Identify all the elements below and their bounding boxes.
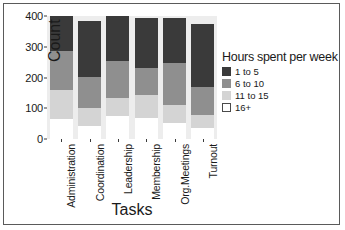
y-axis-label: Count	[46, 19, 64, 62]
x-tick-mark	[203, 139, 204, 142]
y-tick-label: 100	[25, 102, 43, 114]
x-tick-mark	[61, 139, 62, 142]
legend-swatch-icon	[222, 91, 231, 100]
x-tick-label: Leadership	[122, 144, 134, 194]
legend-item-label: 11 to 15	[235, 90, 269, 101]
bar-segment	[106, 61, 129, 98]
bar-segment	[163, 18, 186, 63]
bar-segment	[135, 118, 158, 139]
bar-leadership[interactable]	[106, 16, 129, 139]
bar-segment	[50, 119, 73, 139]
y-tick-mark	[44, 16, 47, 17]
x-tick-label: Coordination	[94, 144, 106, 201]
legend-items: 1 to 56 to 1011 to 1516+	[222, 66, 338, 113]
bar-segment	[191, 24, 214, 87]
x-axis-label: Tasks	[47, 201, 217, 219]
bar-segment	[50, 90, 73, 120]
plot-area	[47, 16, 217, 139]
bar-org-meetings[interactable]	[163, 18, 186, 139]
x-tick-mark	[90, 139, 91, 142]
bar-segment	[191, 115, 214, 128]
bar-segment	[163, 63, 186, 104]
legend-item-label: 1 to 5	[235, 66, 259, 77]
x-tick-mark	[118, 139, 119, 142]
bar-segment	[78, 77, 101, 109]
y-tick-mark	[44, 139, 47, 140]
bar-segment	[106, 116, 129, 139]
bar-segment	[78, 126, 101, 139]
x-tick-label: Membership	[150, 144, 162, 200]
x-tick-label: Administration	[65, 144, 77, 208]
x-tick-mark	[146, 139, 147, 142]
legend-item-label: 16+	[235, 102, 251, 113]
chart-frame: Count 0100200300400 AdministrationCoordi…	[3, 3, 340, 225]
bar-segment	[191, 87, 214, 115]
bar-segment	[191, 128, 214, 139]
plot-panel: Count 0100200300400 AdministrationCoordi…	[47, 16, 217, 139]
bar-segment	[135, 18, 158, 68]
bar-segment	[106, 16, 129, 61]
legend-item[interactable]: 6 to 10	[222, 78, 338, 89]
bar-segment	[135, 68, 158, 95]
y-tick-label: 300	[25, 41, 43, 53]
legend-item-label: 6 to 10	[235, 78, 264, 89]
legend-item[interactable]: 11 to 15	[222, 90, 338, 101]
y-tick-label: 200	[25, 72, 43, 84]
bar-coordination[interactable]	[78, 21, 101, 139]
legend-item[interactable]: 16+	[222, 102, 338, 113]
y-tick-label: 400	[25, 10, 43, 22]
bar-segment	[163, 105, 186, 124]
y-tick-mark	[44, 46, 47, 47]
legend: Hours spent per week 1 to 56 to 1011 to …	[222, 50, 338, 114]
legend-swatch-icon	[222, 103, 231, 112]
y-tick-mark	[44, 77, 47, 78]
bar-segment	[135, 95, 158, 118]
x-tick-label: Org.Meetings	[179, 144, 191, 205]
x-tick-label: Turnout	[207, 144, 219, 178]
x-tick-mark	[175, 139, 176, 142]
bar-membership[interactable]	[135, 18, 158, 139]
legend-title: Hours spent per week	[222, 50, 338, 64]
legend-swatch-icon	[222, 67, 231, 76]
bar-segment	[163, 123, 186, 139]
bar-turnout[interactable]	[191, 24, 214, 139]
legend-swatch-icon	[222, 79, 231, 88]
bar-segment	[106, 98, 129, 116]
bar-segment	[78, 21, 101, 77]
y-tick-mark	[44, 108, 47, 109]
y-tick-label: 0	[37, 133, 43, 145]
legend-item[interactable]: 1 to 5	[222, 66, 338, 77]
bar-segment	[78, 108, 101, 126]
